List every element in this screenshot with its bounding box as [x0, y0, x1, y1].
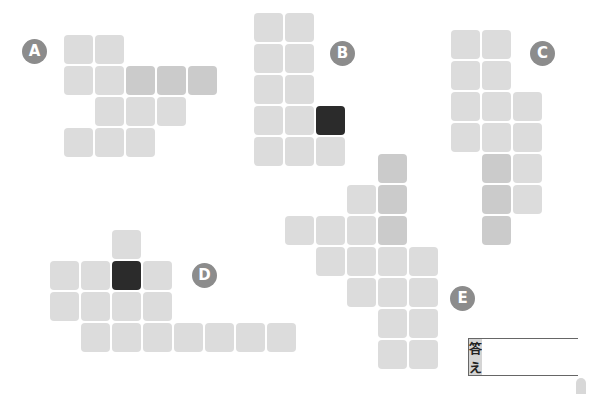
grid-cell — [112, 230, 141, 259]
grid-cell — [378, 340, 407, 369]
grid-cell — [112, 292, 141, 321]
grid-cell — [451, 123, 480, 152]
grid-cell — [50, 261, 79, 290]
grid-cell — [143, 323, 172, 352]
grid-cell — [285, 137, 314, 166]
corner-mark-icon — [576, 378, 586, 394]
grid-cell — [316, 137, 345, 166]
grid-cell — [254, 75, 283, 104]
grid-cell — [285, 75, 314, 104]
grid-cell — [482, 154, 511, 183]
grid-cell — [513, 154, 542, 183]
marked-cell — [316, 106, 345, 135]
grid-cell — [347, 185, 376, 214]
answer-box: 答え — [468, 338, 578, 376]
grid-cell — [285, 216, 314, 245]
grid-cell — [513, 185, 542, 214]
grid-cell — [378, 185, 407, 214]
marked-cell — [112, 261, 141, 290]
figure-label-a[interactable]: A — [22, 39, 47, 64]
grid-cell — [513, 123, 542, 152]
grid-cell — [64, 66, 93, 95]
grid-cell — [482, 123, 511, 152]
grid-cell — [378, 247, 407, 276]
grid-cell — [157, 66, 186, 95]
figure-label-e[interactable]: E — [450, 286, 475, 311]
answer-label: 答え — [469, 339, 482, 375]
grid-cell — [126, 97, 155, 126]
grid-cell — [157, 97, 186, 126]
grid-cell — [316, 247, 345, 276]
grid-cell — [126, 66, 155, 95]
grid-cell — [378, 154, 407, 183]
grid-cell — [188, 66, 217, 95]
grid-cell — [254, 137, 283, 166]
grid-cell — [316, 216, 345, 245]
grid-cell — [81, 292, 110, 321]
grid-cell — [482, 216, 511, 245]
grid-cell — [95, 128, 124, 157]
grid-cell — [81, 261, 110, 290]
grid-cell — [174, 323, 203, 352]
grid-cell — [378, 309, 407, 338]
grid-cell — [482, 185, 511, 214]
grid-cell — [64, 35, 93, 64]
grid-cell — [81, 323, 110, 352]
grid-cell — [143, 261, 172, 290]
grid-cell — [254, 106, 283, 135]
grid-cell — [451, 61, 480, 90]
grid-cell — [126, 128, 155, 157]
grid-cell — [95, 97, 124, 126]
grid-cell — [347, 278, 376, 307]
grid-cell — [451, 92, 480, 121]
grid-cell — [236, 323, 265, 352]
grid-cell — [95, 35, 124, 64]
grid-cell — [64, 128, 93, 157]
grid-cell — [409, 309, 438, 338]
grid-cell — [254, 44, 283, 73]
grid-cell — [205, 323, 234, 352]
grid-cell — [285, 13, 314, 42]
grid-cell — [143, 292, 172, 321]
grid-cell — [409, 340, 438, 369]
grid-cell — [482, 61, 511, 90]
figure-label-c[interactable]: C — [530, 41, 555, 66]
figure-label-b[interactable]: B — [330, 41, 355, 66]
grid-cell — [482, 92, 511, 121]
grid-cell — [95, 66, 124, 95]
grid-cell — [267, 323, 296, 352]
grid-cell — [409, 278, 438, 307]
grid-cell — [378, 216, 407, 245]
answer-input[interactable] — [482, 339, 592, 375]
grid-cell — [50, 292, 79, 321]
grid-cell — [285, 106, 314, 135]
grid-cell — [285, 44, 314, 73]
grid-cell — [409, 247, 438, 276]
grid-cell — [254, 13, 283, 42]
grid-cell — [482, 30, 511, 59]
grid-cell — [513, 92, 542, 121]
grid-cell — [112, 323, 141, 352]
grid-cell — [347, 247, 376, 276]
grid-cell — [451, 30, 480, 59]
figure-label-d[interactable]: D — [192, 263, 217, 288]
grid-cell — [378, 278, 407, 307]
grid-cell — [347, 216, 376, 245]
